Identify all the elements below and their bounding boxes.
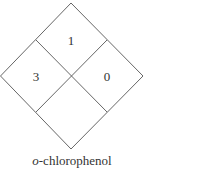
hazard-diamond: 1 3 0 [0,0,203,170]
quadrant-right-value: 0 [104,69,111,84]
compound-caption: o-chlorophenol [30,153,114,169]
caption-suffix: -chlorophenol [39,153,112,168]
quadrant-top-value: 1 [68,33,75,48]
quadrant-left-value: 3 [33,69,40,84]
